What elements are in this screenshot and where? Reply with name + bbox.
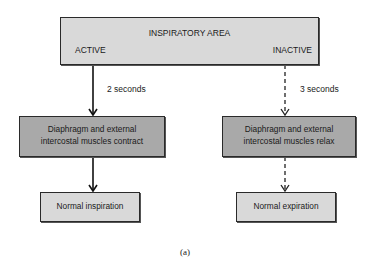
muscles-contract-box: Diaphragm and external intercostal muscl… <box>19 116 165 157</box>
muscles-relax-line2: intercostal muscles relax <box>223 136 355 148</box>
normal-inspiration-box: Normal inspiration <box>40 192 140 222</box>
normal-expiration-label: Normal expiration <box>237 201 335 213</box>
inactive-state-label: INACTIVE <box>273 45 312 55</box>
inspiratory-area-title: INSPIRATORY AREA <box>61 28 318 38</box>
normal-expiration-box: Normal expiration <box>236 192 336 222</box>
muscles-contract-line2: intercostal muscles contract <box>20 136 164 148</box>
muscles-relax-line1: Diaphragm and external <box>223 124 355 136</box>
inspiratory-area-box: INSPIRATORY AREA ACTIVE INACTIVE <box>60 17 319 65</box>
left-duration-label: 2 seconds <box>107 84 146 94</box>
normal-inspiration-label: Normal inspiration <box>41 201 139 213</box>
active-state-label: ACTIVE <box>75 45 106 55</box>
figure-caption: (a) <box>180 247 190 257</box>
muscles-contract-line1: Diaphragm and external <box>20 124 164 136</box>
muscles-relax-box: Diaphragm and external intercostal muscl… <box>222 116 356 157</box>
right-duration-label: 3 seconds <box>300 84 339 94</box>
